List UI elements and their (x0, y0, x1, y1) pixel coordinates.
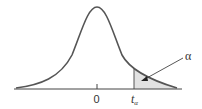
alpha-arrow (145, 58, 183, 79)
t-alpha-label: tα (131, 92, 138, 107)
alpha-label: α (185, 49, 192, 63)
density-curve (16, 7, 177, 88)
t-distribution-diagram: 0 tα α (0, 0, 202, 109)
zero-label: 0 (94, 93, 100, 105)
